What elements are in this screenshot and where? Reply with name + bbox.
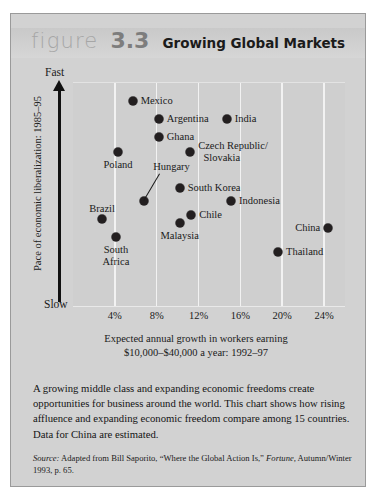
data-label-brazil: Brazil	[89, 203, 115, 214]
data-point-south-africa[interactable]	[111, 232, 120, 241]
y-axis-title: Pace of economic liberalization: 1985–95	[32, 74, 43, 294]
data-label-malaysia: Malaysia	[160, 230, 199, 241]
data-label-thailand: Thailand	[286, 247, 323, 258]
data-label-ghana: Ghana	[167, 131, 194, 142]
x-axis-title-line1: Expected annual growth in workers earnin…	[104, 333, 287, 344]
data-label-poland: Poland	[103, 159, 132, 170]
leader-line-hungary	[143, 174, 160, 202]
figure-caption: A growing middle class and expanding eco…	[33, 381, 353, 442]
data-point-poland[interactable]	[113, 148, 122, 157]
y-axis-bottom-label: Slow	[44, 298, 68, 310]
x-tick-label: 4%	[108, 310, 122, 321]
chart-container: Fast Slow Pace of economic liberalizatio…	[11, 66, 367, 326]
data-point-thailand[interactable]	[274, 248, 283, 257]
data-point-india[interactable]	[222, 114, 231, 123]
data-point-china[interactable]	[324, 223, 333, 232]
data-point-indonesia[interactable]	[226, 197, 235, 206]
data-label-china: China	[295, 222, 320, 233]
x-tick-label: 8%	[150, 310, 164, 321]
x-tick-label: 12%	[189, 310, 208, 321]
data-point-brazil[interactable]	[98, 215, 107, 224]
data-point-malaysia[interactable]	[175, 219, 184, 228]
x-axis-title: Expected annual growth in workers earnin…	[51, 332, 341, 360]
data-label-chile: Chile	[199, 209, 222, 220]
source-label: Source:	[33, 453, 59, 463]
figure-header-row: figure 3.3 Growing Global Markets	[31, 28, 345, 58]
data-label-mexico: Mexico	[141, 95, 173, 106]
figure-header: figure 3.3 Growing Global Markets	[11, 28, 365, 58]
data-label-south-africa: SouthAfrica	[102, 244, 129, 268]
x-tick-label: 24%	[314, 310, 333, 321]
source-text-1: Adapted from Bill Saporito, “Where the G…	[59, 453, 266, 463]
x-axis-title-line2: $10,000–$40,000 a year: 1992–97	[124, 347, 268, 358]
x-tick-label: 20%	[273, 310, 292, 321]
gridline-24pct	[323, 83, 325, 306]
data-label-india: India	[235, 113, 257, 124]
y-axis-top-label: Fast	[45, 66, 64, 78]
figure-word: figure	[31, 29, 98, 53]
page-title: Growing Global Markets	[162, 35, 345, 51]
data-label-south-korea: South Korea	[188, 182, 241, 193]
y-axis-arrow	[58, 88, 61, 302]
data-point-chile[interactable]	[187, 210, 196, 219]
data-point-mexico[interactable]	[128, 96, 137, 105]
data-point-argentina[interactable]	[154, 114, 163, 123]
data-label-argentina: Argentina	[167, 113, 209, 124]
data-label-indonesia: Indonesia	[239, 196, 280, 207]
data-point-south-korea[interactable]	[175, 183, 184, 192]
figure-source: Source: Adapted from Bill Saporito, “Whe…	[33, 452, 353, 477]
figure-number: 3.3	[110, 28, 149, 53]
gridline-4pct	[114, 83, 116, 306]
x-axis-ticks: 4%8%12%16%20%24%	[73, 310, 345, 326]
data-label-hungary: Hungary	[153, 161, 190, 172]
data-point-ghana[interactable]	[154, 132, 163, 141]
source-italic-1: Fortune,	[266, 453, 296, 463]
figure-box: figure 3.3 Growing Global Markets Fast S…	[10, 13, 366, 487]
plot-area: MexicoArgentinaIndiaGhanaPolandCzech Rep…	[73, 82, 345, 307]
x-tick-label: 16%	[231, 310, 250, 321]
gridline-20pct	[281, 83, 283, 306]
data-point-czech-republic-slovakia[interactable]	[186, 148, 195, 157]
data-label-czech-republic-slovakia: Czech Republic/ Slovakia	[198, 140, 268, 164]
